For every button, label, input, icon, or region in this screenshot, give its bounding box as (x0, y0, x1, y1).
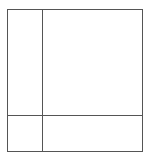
vertical-divider (42, 9, 43, 152)
cell-top-right (43, 10, 142, 115)
cell-top-left (8, 10, 42, 115)
cell-bottom-right (43, 116, 142, 151)
diagram-canvas (0, 0, 145, 158)
cell-bottom-left (8, 116, 42, 151)
horizontal-divider (7, 115, 143, 116)
